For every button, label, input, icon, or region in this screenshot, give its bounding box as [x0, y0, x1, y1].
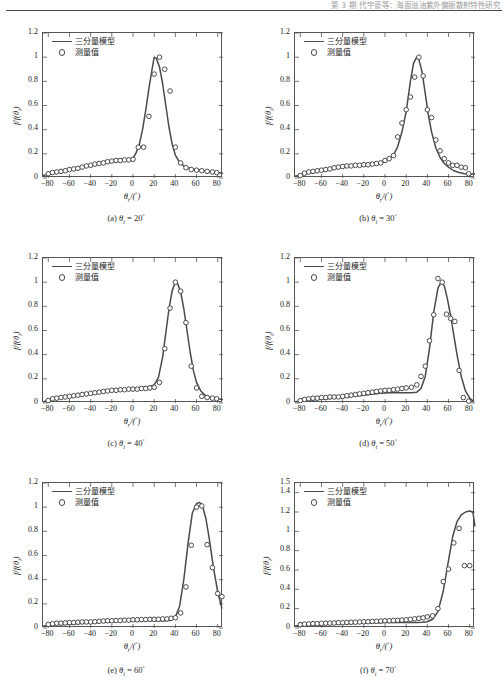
y-tick-label: 0.2 — [252, 602, 290, 611]
legend-item-model: 三分量模型 — [52, 36, 115, 47]
legend-e: 三分量模型测量值 — [52, 486, 115, 508]
model-curve — [43, 502, 222, 626]
legend-label-measured: 测量值 — [75, 273, 99, 283]
subplot-c: 00.20.40.60.811.2−80−60−40−20020406080f/… — [0, 239, 252, 464]
legend-c: 三分量模型测量值 — [52, 261, 115, 283]
y-tick-label: 1.2 — [0, 477, 38, 486]
subplot-caption-c: (c) θi = 40◦ — [0, 437, 252, 450]
x-tick-label: 80 — [454, 629, 484, 638]
legend-label-model: 三分量模型 — [327, 262, 367, 272]
line-key-icon — [304, 41, 324, 42]
subplot-a: 00.20.40.60.811.2−80−60−40−20020406080f/… — [0, 14, 252, 239]
legend-label-measured: 测量值 — [327, 48, 351, 58]
line-key-icon — [52, 491, 72, 492]
y-tick-label: 1 — [0, 501, 38, 510]
subplot-caption-b: (b) θi = 30◦ — [252, 212, 504, 225]
legend-d: 三分量模型测量值 — [304, 261, 367, 283]
subplot-e: 00.20.40.60.811.2−80−60−40−20020406080f/… — [0, 464, 252, 690]
y-tick-label: 1.2 — [0, 27, 38, 36]
y-axis-label: f/f(θi) — [261, 556, 273, 575]
subplot-caption-d: (d) θi = 50◦ — [252, 437, 504, 450]
y-tick-label: 0.8 — [252, 300, 290, 309]
circle-marker-icon — [304, 274, 324, 281]
x-axis-label: θr/(◦) — [252, 415, 504, 428]
y-tick-label: 0.8 — [0, 525, 38, 534]
y-tick-label: 1.2 — [252, 27, 290, 36]
legend-a: 三分量模型测量值 — [52, 36, 115, 58]
y-tick-label: 0.4 — [252, 583, 290, 592]
plot-panel-f: 00.20.40.60.811.21.41.5−80−60−40−2002040… — [252, 464, 504, 660]
subplot-d: 00.20.40.60.811.2−80−60−40−20020406080f/… — [252, 239, 504, 464]
y-tick-label: 0.8 — [252, 75, 290, 84]
y-axis-label: f/f(θi) — [263, 106, 275, 125]
measured-markers — [46, 504, 224, 627]
x-tick-label: 80 — [454, 179, 484, 188]
x-tick-label: 80 — [454, 404, 484, 413]
legend-item-model: 三分量模型 — [52, 261, 115, 272]
y-tick-label: 1 — [252, 525, 290, 534]
y-axis-label: f/f(θi) — [11, 331, 23, 350]
measured-markers — [46, 280, 219, 403]
y-tick-label: 1.5 — [252, 477, 290, 486]
y-tick-label: 1 — [252, 276, 290, 285]
legend-item-measured: 测量值 — [52, 272, 115, 283]
circle-marker-icon — [304, 49, 324, 56]
legend-item-model: 三分量模型 — [52, 486, 115, 497]
plot-panel-a: 00.20.40.60.811.2−80−60−40−20020406080f/… — [0, 14, 252, 210]
y-tick-label: 1.2 — [252, 506, 290, 515]
legend-label-model: 三分量模型 — [75, 487, 115, 497]
page-header: 第 3 期 代宇豪等：海面溢油紫外偏振散射特性研究 — [0, 0, 504, 14]
plot-panel-e: 00.20.40.60.811.2−80−60−40−20020406080f/… — [0, 464, 252, 660]
model-curve — [295, 282, 474, 402]
x-axis-label: θr/(◦) — [252, 640, 504, 653]
y-tick-label: 1 — [0, 51, 38, 60]
subplot-b: 00.20.40.60.811.2−80−60−40−20020406080f/… — [252, 14, 504, 239]
header-divider — [6, 10, 502, 11]
y-tick-label: 0.2 — [0, 597, 38, 606]
legend-label-measured: 测量值 — [75, 498, 99, 508]
y-axis-label: f/f(θi) — [11, 106, 23, 125]
y-axis-label: f/f(θi) — [263, 331, 275, 350]
measured-markers — [298, 276, 471, 403]
plot-panel-d: 00.20.40.60.811.2−80−60−40−20020406080f/… — [252, 239, 504, 435]
subplot-f: 00.20.40.60.811.21.41.5−80−60−40−2002040… — [252, 464, 504, 690]
y-tick-label: 0.2 — [0, 147, 38, 156]
subplot-caption-f: (f) θi = 70◦ — [252, 664, 504, 677]
legend-item-model: 三分量模型 — [304, 261, 367, 272]
subplot-caption-e: (e) θi = 60◦ — [0, 664, 252, 677]
y-tick-label: 1 — [252, 51, 290, 60]
x-axis-label: θr/(◦) — [252, 190, 504, 203]
line-key-icon — [304, 491, 324, 492]
x-tick-label: 80 — [202, 404, 232, 413]
line-key-icon — [52, 41, 72, 42]
legend-item-model: 三分量模型 — [304, 486, 367, 497]
line-key-icon — [304, 266, 324, 267]
x-tick-label: 80 — [202, 629, 232, 638]
circle-marker-icon — [52, 49, 72, 56]
y-tick-label: 1.2 — [252, 252, 290, 261]
legend-item-measured: 测量值 — [304, 497, 367, 508]
legend-item-measured: 测量值 — [52, 497, 115, 508]
legend-item-model: 三分量模型 — [304, 36, 367, 47]
y-tick-label: 0.2 — [0, 372, 38, 381]
legend-item-measured: 测量值 — [304, 272, 367, 283]
y-tick-label: 0.8 — [252, 544, 290, 553]
y-tick-label: 0.8 — [0, 300, 38, 309]
y-tick-label: 0.2 — [252, 372, 290, 381]
legend-label-measured: 测量值 — [75, 48, 99, 58]
x-axis-label: θr/(◦) — [0, 190, 264, 203]
y-axis-label: f/f(θi) — [11, 556, 23, 575]
figure-grid: 00.20.40.60.811.2−80−60−40−20020406080f/… — [0, 14, 504, 690]
x-tick-label: 80 — [202, 179, 232, 188]
circle-marker-icon — [52, 499, 72, 506]
legend-item-measured: 测量值 — [52, 47, 115, 58]
plot-panel-b: 00.20.40.60.811.2−80−60−40−20020406080f/… — [252, 14, 504, 210]
legend-label-measured: 测量值 — [327, 273, 351, 283]
legend-item-measured: 测量值 — [304, 47, 367, 58]
model-curve — [43, 282, 223, 402]
circle-marker-icon — [304, 499, 324, 506]
legend-label-model: 三分量模型 — [75, 37, 115, 47]
legend-f: 三分量模型测量值 — [304, 486, 367, 508]
measured-markers — [46, 55, 219, 176]
x-axis-label: θr/(◦) — [0, 640, 264, 653]
